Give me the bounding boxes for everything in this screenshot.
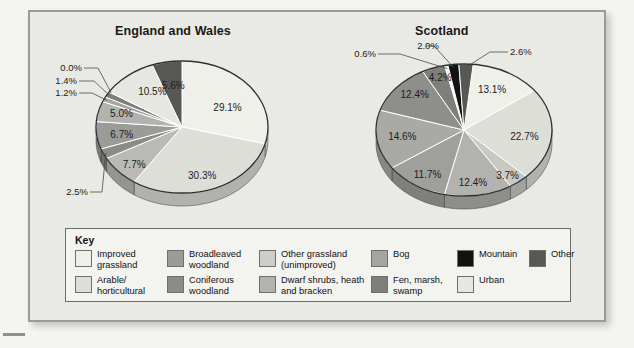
label-leader-line (79, 93, 106, 100)
pie-slice-label: 3.7% (496, 170, 519, 181)
legend-item-label: Other grassland (unimproved) (281, 249, 371, 270)
corner-tick-mark (3, 333, 25, 336)
legend-item: Fen, marsh, swamp (371, 275, 457, 301)
legend-item: Other grassland (unimproved) (259, 249, 371, 275)
pie-slice-label: 2.6% (510, 46, 532, 57)
legend-swatch (371, 250, 388, 267)
legend-swatch (75, 250, 92, 267)
legend-item-label: Bog (393, 249, 410, 260)
legend-item: Arable/ horticultural (75, 275, 167, 301)
legend-item: Other (529, 249, 579, 275)
legend-item: Bog (371, 249, 457, 275)
legend-swatch (371, 276, 388, 293)
pie-slice-label: 13.1% (478, 84, 506, 95)
figure-panel: England and Wales 29.1%30.3%7.7%2.5%6.7%… (28, 10, 606, 322)
legend-item-label: Arable/ horticultural (97, 275, 167, 296)
pie-slice-label: 29.1% (213, 102, 241, 113)
legend-swatch (167, 276, 184, 293)
label-leader-line (84, 68, 111, 93)
pie-svg-scotland: 13.1%22.7%3.7%12.4%11.7%14.6%12.4%4.2%0.… (328, 42, 604, 222)
screenshot-root: England and Wales 29.1%30.3%7.7%2.5%6.7%… (0, 0, 634, 348)
legend-item-label: Fen, marsh, swamp (393, 275, 457, 296)
pie-slice-label: 7.7% (123, 159, 146, 170)
legend-swatch (529, 250, 546, 267)
pie-slice-label: 2.5% (66, 186, 88, 197)
legend-item-label: Dwarf shrubs, heath and bracken (281, 275, 371, 296)
legend-item: Coniferous woodland (167, 275, 259, 301)
legend-item: Mountain (457, 249, 529, 275)
pie-slice-label: 4.2% (429, 72, 452, 83)
legend-item: Dwarf shrubs, heath and bracken (259, 275, 371, 301)
legend-grid: Improved grasslandBroadleaved woodlandOt… (75, 249, 563, 301)
pie-slice-label: 30.3% (188, 170, 216, 181)
pie-slice-label: 12.4% (459, 177, 487, 188)
legend-title: Key (75, 234, 563, 246)
legend-item-label: Other (551, 249, 574, 260)
pie-slice-label: 0.0% (60, 62, 82, 73)
pie-slice-label: 1.4% (55, 75, 77, 86)
legend-swatch (457, 250, 474, 267)
legend-swatch (75, 276, 92, 293)
pie-slice-label: 14.6% (388, 131, 416, 142)
legend-item-label: Coniferous woodland (189, 275, 259, 296)
legend-item-label: Urban (479, 275, 504, 286)
chart-title-england-wales: England and Wales (115, 24, 231, 38)
legend-item-label: Mountain (479, 249, 517, 260)
pie-slice-label: 1.2% (55, 87, 77, 98)
legend-swatch (259, 276, 276, 293)
legend-key-box: Key Improved grasslandBroadleaved woodla… (65, 228, 571, 302)
pie-slice-label: 5.0% (110, 108, 133, 119)
legend-swatch (457, 276, 474, 293)
legend-swatch (167, 250, 184, 267)
pie-chart-scotland: 13.1%22.7%3.7%12.4%11.7%14.6%12.4%4.2%0.… (328, 42, 604, 222)
pie-chart-england-wales: 29.1%30.3%7.7%2.5%6.7%5.0%1.2%1.4%0.0%10… (36, 42, 316, 222)
pie-slice-label: 6.7% (110, 129, 133, 140)
pie-slice-label: 2.0% (417, 40, 439, 51)
pie-slice-label: 0.6% (354, 48, 376, 59)
pie-slice-label: 5.6% (162, 80, 185, 91)
legend-item: Broadleaved woodland (167, 249, 259, 275)
legend-item: Improved grassland (75, 249, 167, 275)
legend-swatch (259, 250, 276, 267)
pie-svg-england-wales: 29.1%30.3%7.7%2.5%6.7%5.0%1.2%1.4%0.0%10… (36, 42, 316, 222)
legend-item-label: Improved grassland (97, 249, 167, 270)
figure-panel-inner: England and Wales 29.1%30.3%7.7%2.5%6.7%… (30, 12, 604, 320)
pie-slice-label: 22.7% (510, 131, 538, 142)
pie-slice-label: 11.7% (414, 169, 442, 180)
chart-title-scotland: Scotland (415, 24, 469, 38)
legend-item: Urban (457, 275, 529, 301)
legend-item-label: Broadleaved woodland (189, 249, 259, 270)
pie-slice-label: 12.4% (401, 89, 429, 100)
